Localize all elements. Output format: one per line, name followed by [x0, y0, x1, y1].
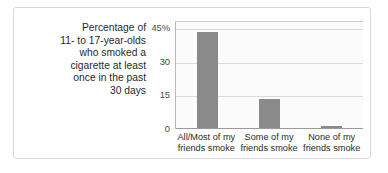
caption-line: who smoked a: [28, 47, 146, 60]
x-label-line: None of my: [300, 132, 363, 143]
y-axis: 45% 30 15 0: [147, 21, 173, 129]
x-axis-label: All/Most of my friends smoke: [175, 132, 238, 154]
plot-canvas: [175, 21, 363, 129]
caption-line: Percentage of: [28, 22, 146, 35]
caption-line: cigarette at least: [28, 60, 146, 73]
y-axis-tick: 0: [165, 124, 170, 134]
x-label-line: friends smoke: [300, 143, 363, 154]
chart-caption: Percentage of 11- to 17-year-olds who sm…: [28, 22, 146, 98]
axis-baseline: [176, 128, 363, 129]
x-axis-label: Some of my friends smoke: [238, 132, 301, 154]
bar-cell: [176, 22, 238, 128]
caption-line: once in the past: [28, 72, 146, 85]
x-label-line: All/Most of my: [175, 132, 238, 143]
bar[interactable]: [197, 32, 218, 128]
y-axis-tick: 45%: [151, 23, 170, 33]
caption-line: 30 days: [28, 85, 146, 98]
bar[interactable]: [259, 99, 280, 128]
x-label-line: friends smoke: [175, 143, 238, 154]
x-axis-label: None of my friends smoke: [300, 132, 363, 154]
bar-series: [176, 22, 363, 128]
bar-cell: [238, 22, 300, 128]
y-axis-tick: 15: [160, 90, 170, 100]
y-axis-tick: 30: [160, 57, 170, 67]
x-label-line: friends smoke: [238, 143, 301, 154]
chart-plot-area: 45% 30 15 0: [147, 21, 363, 129]
x-axis-labels: All/Most of my friends smoke Some of my …: [175, 132, 363, 154]
x-label-line: Some of my: [238, 132, 301, 143]
caption-line: 11- to 17-year-olds: [28, 35, 146, 48]
bar-cell: [301, 22, 363, 128]
bar[interactable]: [321, 126, 342, 128]
chart-frame: Percentage of 11- to 17-year-olds who sm…: [13, 7, 371, 159]
